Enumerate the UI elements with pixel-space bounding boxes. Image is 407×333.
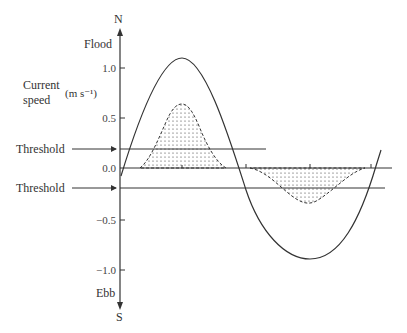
flood-label: Flood <box>84 37 112 51</box>
ylabel-speed: speed <box>23 93 50 107</box>
ylabel-current: Current <box>23 78 60 92</box>
ebb-label: Ebb <box>96 286 115 300</box>
north-label: N <box>114 12 123 26</box>
ebb-transport-area <box>250 168 365 203</box>
flood-transport-area <box>140 104 226 168</box>
tidal-diagram <box>0 0 407 333</box>
north-arrow-icon <box>117 28 123 36</box>
threshold-upper-label: Threshold <box>16 142 65 156</box>
tick-0.5: 0.5 <box>76 112 116 124</box>
south-arrow-icon <box>117 302 123 310</box>
ylabel-units: (m s⁻¹) <box>65 86 97 100</box>
tick-neg-1.0: −1.0 <box>76 264 116 276</box>
south-label: S <box>116 310 123 324</box>
tick-neg-0.5: −0.5 <box>76 214 116 226</box>
threshold-lower-label: Threshold <box>16 181 65 195</box>
tick-1.0: 1.0 <box>76 62 116 74</box>
tick-0.0: 0.0 <box>76 162 116 174</box>
